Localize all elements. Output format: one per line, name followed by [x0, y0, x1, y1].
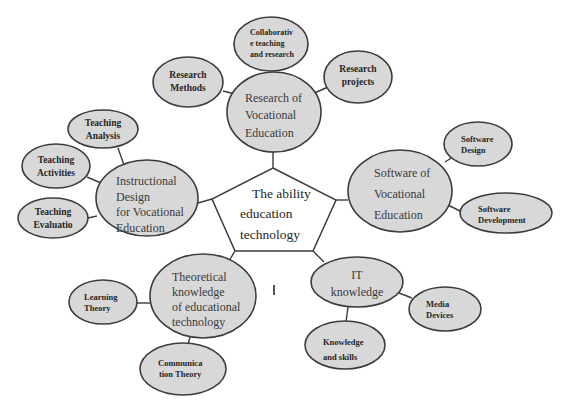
instructional-label: Instructional Design for Vocational Educ… [116, 174, 184, 236]
software-development-label: Software Development [478, 204, 526, 227]
teaching-evaluation-line-2: Evaluatio [25, 219, 81, 232]
research-methods-label: Research Methods [160, 69, 216, 95]
software-design-label: Software Design [461, 134, 493, 157]
research-line-1: Research of [245, 90, 302, 107]
it-line-2: knowledge [330, 284, 384, 301]
center-label: The ability education technology [240, 184, 320, 245]
research-line-3: Education [245, 125, 302, 142]
software-line-1: Software of [374, 163, 430, 184]
knowledge-skills-line-1: Knowledge [323, 335, 364, 350]
communication-theory-label: Communica tion Theory [158, 358, 202, 381]
learning-theory-label: Learning Theory [84, 292, 118, 315]
communication-theory-line-2: tion Theory [158, 369, 202, 380]
software-development-line-1: Software [478, 204, 526, 215]
it-label: IT knowledge [330, 267, 384, 301]
knowledge-skills-line-2: and skills [323, 350, 364, 365]
media-devices-line-2: Devices [426, 310, 453, 321]
teaching-analysis-label: Teaching Analysis [75, 117, 131, 143]
it-line-1: IT [330, 267, 384, 284]
teaching-activities-label: Teaching Activities [28, 154, 84, 180]
teaching-activities-line-1: Teaching [28, 154, 84, 167]
media-devices-line-1: Media [426, 299, 453, 310]
center-line-1: The ability [240, 184, 320, 204]
software-line-2: Vocational [374, 184, 430, 205]
research-methods-line-1: Research [160, 69, 216, 82]
stray-tick-mark [273, 285, 275, 295]
research-projects-line-1: Research [328, 63, 388, 76]
instructional-line-3: for Vocational [116, 205, 184, 221]
center-line-2: education [240, 204, 320, 224]
research-line-2: Vocational [245, 107, 302, 124]
theoretical-line-1: Theoretical [172, 270, 240, 285]
instructional-line-1: Instructional [116, 174, 184, 190]
collaborative-line-3: and research [250, 50, 294, 61]
media-devices-label: Media Devices [426, 299, 453, 322]
software-label: Software of Vocational Education [374, 163, 430, 226]
theoretical-line-4: technology [172, 315, 240, 330]
learning-theory-line-2: Theory [84, 303, 118, 314]
instructional-line-4: Education [116, 221, 184, 237]
theoretical-line-2: knowledge [172, 285, 240, 300]
theoretical-label: Theoretical knowledge of educational tec… [172, 270, 240, 330]
collaborative-line-2: e teaching [250, 39, 294, 50]
software-line-3: Education [374, 205, 430, 226]
research-methods-line-2: Methods [160, 82, 216, 95]
software-design-line-2: Design [461, 145, 493, 156]
communication-theory-line-1: Communica [158, 358, 202, 369]
collaborative-label: Collaborativ e teaching and research [250, 28, 294, 60]
research-projects-line-2: projects [328, 76, 388, 89]
teaching-evaluation-line-1: Teaching [25, 206, 81, 219]
software-development-line-2: Development [478, 215, 526, 226]
research-projects-label: Research projects [328, 63, 388, 89]
software-design-line-1: Software [461, 134, 493, 145]
teaching-analysis-line-1: Teaching [75, 117, 131, 130]
teaching-evaluation-label: Teaching Evaluatio [25, 206, 81, 232]
research-label: Research of Vocational Education [245, 90, 302, 142]
learning-theory-line-1: Learning [84, 292, 118, 303]
collaborative-line-1: Collaborativ [250, 28, 294, 39]
teaching-analysis-line-2: Analysis [75, 130, 131, 143]
knowledge-skills-label: Knowledge and skills [323, 335, 364, 366]
center-line-3: technology [240, 225, 320, 245]
teaching-activities-line-2: Activities [28, 167, 84, 180]
instructional-line-2: Design [116, 190, 184, 206]
theoretical-line-3: of educational [172, 300, 240, 315]
